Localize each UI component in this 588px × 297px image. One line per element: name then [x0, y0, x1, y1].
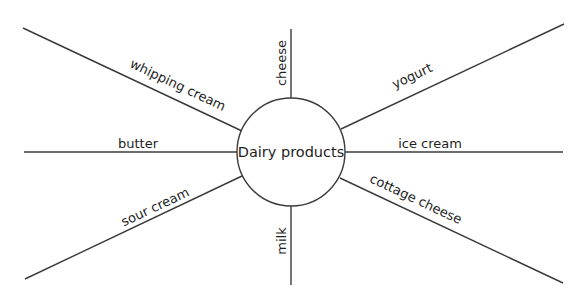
spoke-label-milk: milk	[274, 227, 289, 255]
spoke-label-cottage-cheese: cottage cheese	[368, 171, 465, 227]
dairy-products-spider-diagram: Dairy products whipping creamcheeseyogur…	[0, 0, 588, 297]
spoke-line-whipping-cream	[23, 28, 242, 131]
spoke-label-sour-cream: sour cream	[119, 185, 192, 230]
spoke-line-yogurt	[341, 24, 564, 129]
spoke-label-cheese: cheese	[274, 40, 289, 86]
spoke-line-cottage-cheese	[340, 178, 563, 283]
hub-label: Dairy products	[238, 144, 345, 160]
spoke-line-sour-cream	[25, 176, 242, 279]
spoke-label-ice-cream: ice cream	[398, 136, 462, 151]
spoke-label-butter: butter	[118, 136, 159, 151]
hub-group: Dairy products	[237, 98, 345, 206]
spoke-label-yogurt: yogurt	[390, 60, 435, 92]
